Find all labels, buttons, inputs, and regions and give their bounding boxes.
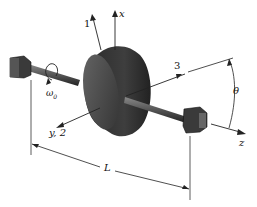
z-axis-line <box>211 124 240 132</box>
y2-axis-label: y, 2 <box>49 128 66 138</box>
axis-3-label: 3 <box>174 61 180 71</box>
z-axis-label: z <box>239 138 244 148</box>
left-shaft <box>28 64 80 86</box>
omega-label: ω0 <box>46 89 57 100</box>
disk-shaft-drawing <box>0 0 257 207</box>
axis-1-label: 1 <box>84 19 90 29</box>
length-label: L <box>104 163 111 173</box>
diagram-canvas: x 1 3 θ ω0 y, 2 z L <box>0 0 257 207</box>
x-axis-label: x <box>119 9 125 19</box>
axis-1-line <box>93 18 101 50</box>
theta-label: θ <box>233 86 239 96</box>
